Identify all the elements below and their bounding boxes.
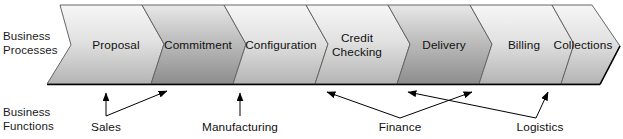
stage-label-proposal: Proposal [92, 38, 139, 52]
connector-logistics-to-delivery [408, 92, 536, 118]
function-labels: Sales Manufacturing Finance Logistics [91, 120, 563, 134]
function-label-logistics: Logistics [517, 120, 564, 134]
connector-finance-to-credit-checking [327, 92, 400, 118]
stage-label-delivery: Delivery [422, 38, 465, 52]
function-connectors [106, 91, 548, 118]
stage-label-collections: Collections [554, 38, 613, 52]
connector-logistics-to-collections [536, 92, 548, 118]
diagram-canvas: Proposal Commitment Configuration Credit… [0, 0, 623, 139]
connector-sales-to-commitment [106, 91, 167, 116]
stage-label-billing: Billing [508, 38, 540, 52]
stage-label-configuration: Configuration [245, 38, 316, 52]
process-value-chain-diagram: BusinessProcesses BusinessFunctions [0, 0, 623, 139]
stage-label-credit-checking-line2: Checking [332, 45, 382, 59]
connector-finance-to-billing [400, 92, 472, 118]
stage-label-credit-checking-line1: Credit [341, 31, 374, 45]
function-label-finance: Finance [379, 120, 422, 134]
function-label-sales: Sales [91, 120, 121, 134]
stage-label-commitment: Commitment [164, 38, 232, 52]
function-label-manufacturing: Manufacturing [202, 120, 278, 134]
